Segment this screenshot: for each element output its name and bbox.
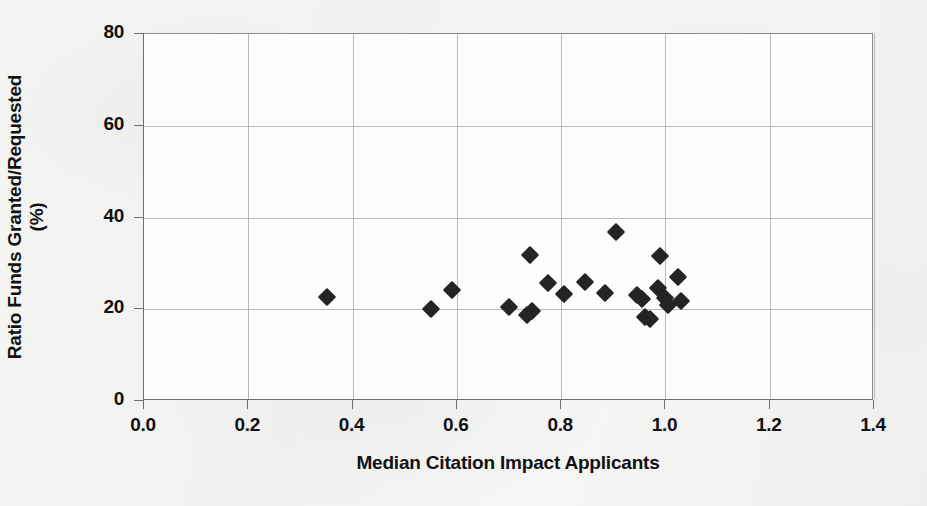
- gridline-vertical: [665, 34, 666, 399]
- gridline-horizontal: [144, 126, 872, 127]
- gridline-vertical: [561, 34, 562, 399]
- y-axis-tick: [134, 308, 143, 309]
- x-axis-tick-label: 0.2: [217, 414, 277, 436]
- y-axis-tick: [134, 217, 143, 218]
- y-axis-tick: [134, 400, 143, 401]
- y-axis-tick: [134, 125, 143, 126]
- y-axis-title: Ratio Funds Granted/Requested (%): [4, 74, 48, 359]
- y-axis-tick-label: 80: [64, 21, 124, 43]
- data-point: [672, 292, 690, 310]
- data-point: [555, 284, 573, 302]
- x-axis-tick: [143, 400, 144, 409]
- y-axis-title-wrapper: Ratio Funds Granted/Requested (%): [0, 33, 52, 400]
- y-axis-tick-label: 60: [64, 113, 124, 135]
- data-point: [422, 300, 440, 318]
- data-point: [521, 246, 539, 264]
- gridline-vertical: [353, 34, 354, 399]
- y-axis-tick-label: 40: [64, 205, 124, 227]
- x-axis-tick-label: 0.0: [113, 414, 173, 436]
- x-axis-tick-label: 0.8: [530, 414, 590, 436]
- data-point: [442, 281, 460, 299]
- x-axis-title: Median Citation Impact Applicants: [143, 452, 873, 474]
- data-point: [500, 298, 518, 316]
- y-axis-title-line1: Ratio Funds Granted/Requested: [4, 74, 25, 359]
- x-axis-tick: [769, 400, 770, 409]
- x-axis-tick: [560, 400, 561, 409]
- data-point: [575, 273, 593, 291]
- scatter-chart-figure: 0.00.20.40.60.81.01.21.4 020406080 Media…: [0, 0, 927, 506]
- y-axis-tick-label: 0: [64, 388, 124, 410]
- data-point: [317, 288, 335, 306]
- data-point: [651, 247, 669, 265]
- y-axis-tick-label: 20: [64, 296, 124, 318]
- gridline-vertical: [874, 34, 875, 399]
- x-axis-tick-label: 1.2: [739, 414, 799, 436]
- data-point: [539, 273, 557, 291]
- y-axis-title-unit: (%): [26, 74, 48, 359]
- gridline-vertical: [248, 34, 249, 399]
- x-axis-tick-label: 1.0: [634, 414, 694, 436]
- x-axis-tick: [247, 400, 248, 409]
- x-axis-tick-label: 0.6: [426, 414, 486, 436]
- gridline-horizontal: [144, 218, 872, 219]
- x-axis-tick: [456, 400, 457, 409]
- gridline-vertical: [457, 34, 458, 399]
- x-axis-tick-label: 1.4: [843, 414, 903, 436]
- x-axis-tick: [352, 400, 353, 409]
- x-axis-tick: [873, 400, 874, 409]
- x-axis-tick-label: 0.4: [322, 414, 382, 436]
- x-axis-tick: [664, 400, 665, 409]
- data-point: [607, 223, 625, 241]
- y-axis-tick: [134, 33, 143, 34]
- data-point: [669, 268, 687, 286]
- plot-area: [143, 33, 873, 400]
- data-point: [596, 284, 614, 302]
- gridline-vertical: [770, 34, 771, 399]
